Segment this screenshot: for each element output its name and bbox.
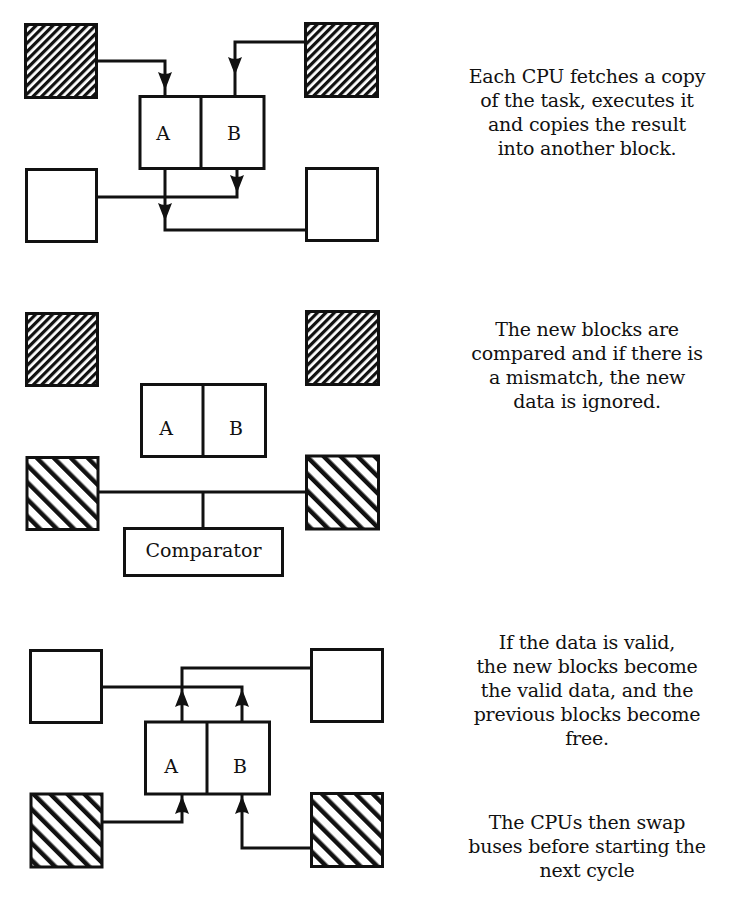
- memory-block-top-left-valid: [27, 314, 98, 386]
- memory-block-top-right-valid: [306, 24, 378, 97]
- bus-b-to-bottom-left: [97, 169, 237, 197]
- panel-1: [26, 24, 378, 242]
- caption-line: and copies the result: [437, 112, 737, 136]
- memory-block-bottom-right-new: [312, 794, 383, 867]
- arrow-up-icon: [235, 689, 249, 707]
- memory-block-top-left-valid: [26, 25, 97, 98]
- caption-line: The CPUs then swap: [437, 810, 737, 834]
- cpu-label-b: B: [233, 755, 247, 777]
- caption-line: If the data is valid,: [437, 630, 737, 654]
- cpu-label-a: A: [163, 755, 178, 777]
- cpu-label-a: A: [155, 122, 170, 144]
- caption-line: into another block.: [437, 136, 737, 160]
- arrow-up-icon: [235, 796, 249, 814]
- bus-a-to-top-right: [182, 668, 311, 722]
- arrow-down-icon: [158, 203, 172, 221]
- cpu-label-a: A: [158, 417, 173, 439]
- dual-cpu-cycle-diagram: A B A B Comparator A B Each CPU fetches …: [0, 0, 742, 921]
- cpu-label-b: B: [227, 122, 241, 144]
- caption-line: The new blocks are: [437, 317, 737, 341]
- caption-line: free.: [437, 726, 737, 750]
- bus-bottom-left-to-a: [102, 794, 182, 822]
- arrow-up-icon: [175, 796, 189, 814]
- memory-block-top-left-free: [31, 651, 102, 723]
- memory-block-bottom-left-new: [27, 458, 98, 530]
- caption-line: the new blocks become: [437, 654, 737, 678]
- panel-3: [31, 650, 383, 868]
- comparator-label: Comparator: [145, 539, 262, 561]
- memory-block-bottom-right-free: [307, 169, 378, 241]
- caption-line: buses before starting the: [437, 834, 737, 858]
- memory-block-top-right-valid: [307, 312, 379, 385]
- caption-line: data is ignored.: [437, 389, 737, 413]
- panel-2: [27, 312, 379, 576]
- caption-line: compared and if there is: [437, 341, 737, 365]
- caption-line: Each CPU fetches a copy: [437, 64, 737, 88]
- caption-step-2: The new blocks are compared and if there…: [437, 317, 737, 413]
- arrow-down-icon: [230, 175, 244, 193]
- memory-block-bottom-right-new: [307, 456, 379, 529]
- caption-step-4: The CPUs then swap buses before starting…: [437, 810, 737, 882]
- memory-block-top-right-free: [312, 650, 383, 722]
- bus-bottom-right-to-b: [242, 794, 311, 848]
- memory-block-bottom-left-free: [27, 170, 97, 242]
- bus-top-right-to-b: [235, 42, 305, 96]
- arrow-down-icon: [158, 72, 172, 90]
- memory-block-bottom-left-new: [31, 794, 102, 867]
- caption-line: next cycle: [437, 858, 737, 882]
- caption-line: of the task, executes it: [437, 88, 737, 112]
- caption-line: the valid data, and the: [437, 678, 737, 702]
- caption-line: previous blocks become: [437, 702, 737, 726]
- bus-b-to-top-left: [101, 687, 242, 722]
- caption-line: a mismatch, the new: [437, 365, 737, 389]
- caption-step-3: If the data is valid, the new blocks bec…: [437, 630, 737, 750]
- caption-step-1: Each CPU fetches a copy of the task, exe…: [437, 64, 737, 160]
- arrow-up-icon: [175, 689, 189, 707]
- bus-top-left-to-a: [97, 61, 166, 96]
- cpu-label-b: B: [229, 417, 243, 439]
- arrow-down-icon: [228, 57, 242, 75]
